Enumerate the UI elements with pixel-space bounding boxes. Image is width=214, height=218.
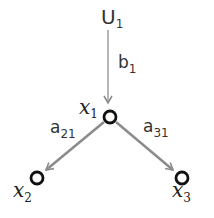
edge-a31-label: a31 xyxy=(143,116,169,140)
node-u1-label: U1 xyxy=(101,5,123,31)
edge-b1-label: b1 xyxy=(118,52,136,76)
node-x2-label: x2 xyxy=(13,178,32,205)
edge-a21-label: a21 xyxy=(50,117,76,141)
node-x1-label: x1 xyxy=(79,95,98,121)
diagram-canvas: U1 b1 x1 a21 a31 x2 x3 xyxy=(0,0,214,218)
path-diagram: U1 b1 x1 a21 a31 x2 x3 xyxy=(0,0,214,218)
node-x1 xyxy=(104,111,116,123)
node-x2 xyxy=(31,172,43,184)
